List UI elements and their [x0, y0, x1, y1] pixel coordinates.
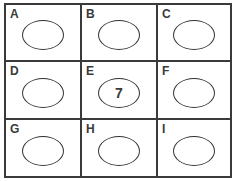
oval-g[interactable]	[22, 136, 64, 166]
cell-a: A	[6, 5, 82, 62]
cell-d: D	[6, 62, 82, 120]
cell-h: H	[82, 120, 158, 176]
oval-i[interactable]	[173, 136, 215, 166]
cell-label: F	[162, 65, 169, 77]
cell-g: G	[6, 120, 82, 176]
cell-b: B	[82, 5, 158, 62]
oval-c[interactable]	[173, 20, 215, 50]
cell-label: A	[10, 8, 19, 20]
cell-label: B	[86, 8, 95, 20]
cell-label: H	[86, 123, 95, 135]
cell-label: C	[162, 8, 171, 20]
oval-b[interactable]	[98, 20, 140, 50]
cell-label: I	[162, 123, 165, 135]
puzzle-grid: A B C D E 7 F G H I	[4, 3, 232, 178]
oval-f[interactable]	[173, 78, 215, 108]
cell-e: E 7	[82, 62, 158, 120]
oval-a[interactable]	[22, 20, 64, 50]
oval-d[interactable]	[22, 78, 64, 108]
cell-label: D	[10, 65, 19, 77]
oval-e[interactable]: 7	[98, 78, 140, 108]
cell-label: E	[86, 65, 94, 77]
cell-f: F	[158, 62, 230, 120]
cell-label: G	[10, 123, 19, 135]
cell-i: I	[158, 120, 230, 176]
cell-c: C	[158, 5, 230, 62]
oval-h[interactable]	[98, 136, 140, 166]
